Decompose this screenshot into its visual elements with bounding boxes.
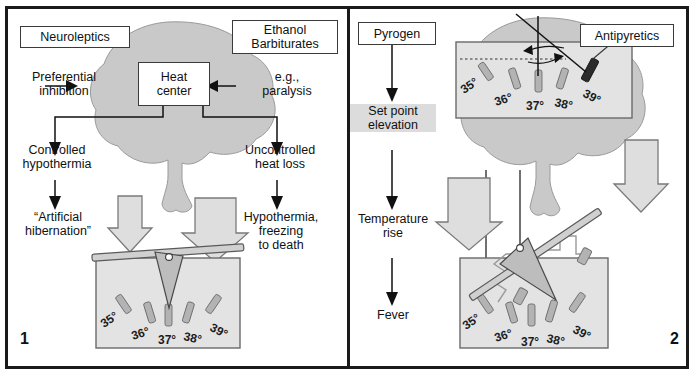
box-heat-center[interactable]: Heat center [138, 62, 210, 106]
label-artificial-hibernation: “Artificial hibernation” [2, 210, 114, 238]
pivot-1 [166, 254, 173, 261]
stem-left-head [49, 196, 61, 210]
panel-2-number: 2 [670, 330, 679, 348]
label-temperature-rise: Temperature rise [348, 212, 438, 240]
box-antipyretics[interactable]: Antipyretics [580, 24, 674, 47]
block-arrow-left [108, 196, 152, 252]
block-arrow-down-left [436, 178, 502, 250]
label-uncontrolled-heat-loss: Uncontrolled heat loss [224, 143, 336, 171]
deg-label-37: 37° [158, 333, 176, 347]
deg-top-37: 37° [526, 99, 544, 113]
panel-1: 35° 36° 37° 38° 39° Neuroleptics Ethanol… [0, 0, 348, 377]
panel-1-number: 1 [20, 330, 29, 348]
label-set-point-elevation: Set point elevation [350, 104, 436, 132]
label-controlled-hypothermia: Controlled hypothermia [2, 143, 112, 171]
tick-bot-37 [528, 304, 535, 326]
temprise-arrow-head [386, 292, 398, 306]
deg-bot-37: 37° [521, 335, 539, 349]
setpoint-arrow-head [386, 196, 398, 210]
stem-right-head [271, 196, 283, 210]
thermoregulation-figure: 35° 36° 37° 38° 39° Neuroleptics Ethanol… [0, 0, 696, 377]
pyrogen-arrow-head [386, 88, 398, 102]
panel-2: 35° 36° 37° 38° 39° [348, 0, 696, 377]
pivot-2 [517, 245, 524, 252]
label-preferential-inhibition: Preferential inhibition [8, 70, 120, 98]
label-hypothermia-freezing: Hypothermia, freezing to death [224, 210, 338, 252]
label-paralysis: e.g., paralysis [238, 70, 336, 98]
box-ethanol-barbiturates[interactable]: Ethanol Barbiturates [232, 20, 338, 54]
label-fever: Fever [362, 308, 424, 322]
panel1-graphics: 35° 36° 37° 38° 39° [0, 0, 348, 377]
box-pyrogen[interactable]: Pyrogen [358, 22, 436, 45]
box-neuroleptics[interactable]: Neuroleptics [20, 26, 130, 48]
block-arrow-down-right [614, 140, 668, 212]
